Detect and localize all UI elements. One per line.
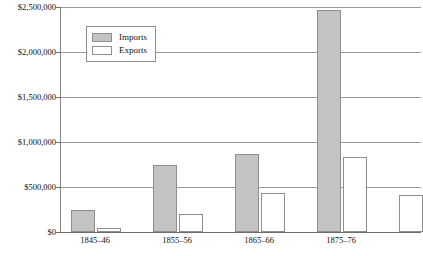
x-axis-tick-label: 1865–66	[219, 236, 299, 245]
y-axis-tick-mark	[56, 52, 61, 53]
y-axis-tick-mark	[56, 187, 61, 188]
y-axis-tick-label: $2,000,000	[0, 48, 56, 57]
gridline	[61, 232, 421, 233]
y-axis-tick-label: $1,000,000	[0, 138, 56, 147]
empty-white-swatch-icon	[92, 46, 112, 55]
gridline	[61, 97, 421, 98]
legend-item-imports: Imports	[92, 31, 147, 44]
bar-imports	[153, 165, 177, 233]
y-axis-tick-label: $0	[0, 228, 56, 237]
x-axis: 1845–461855–561865–661875–76	[60, 236, 422, 256]
y-axis-tick-mark	[56, 7, 61, 8]
legend-item-label: Imports	[119, 33, 147, 42]
bar-exports-clipped	[399, 195, 423, 232]
x-axis-tick-label: 1855–56	[137, 236, 217, 245]
x-axis-tick-label: 1875–76	[301, 236, 381, 245]
legend-item-label: Exports	[119, 46, 147, 55]
bar-exports	[179, 214, 203, 232]
legend-item-exports: Exports	[92, 44, 147, 57]
bar-imports	[235, 154, 259, 232]
filled-gray-swatch-icon	[92, 33, 112, 42]
x-axis-tick-label: 1845–46	[55, 236, 135, 245]
bar-exports	[261, 193, 285, 232]
bar-exports	[97, 228, 121, 232]
y-axis-tick-mark	[56, 97, 61, 98]
bar-imports	[317, 10, 341, 232]
y-axis: $2,500,000$2,000,000$1,500,000$1,000,000…	[0, 0, 56, 256]
gridline	[61, 7, 421, 8]
chart-legend: Imports Exports	[86, 26, 156, 62]
y-axis-tick-mark	[56, 142, 61, 143]
y-axis-tick-label: $2,500,000	[0, 3, 56, 12]
y-axis-tick-label: $500,000	[0, 183, 56, 192]
y-axis-tick-mark	[56, 232, 61, 233]
bar-imports	[71, 210, 95, 233]
gridline	[61, 142, 421, 143]
y-axis-tick-label: $1,500,000	[0, 93, 56, 102]
bar-exports	[343, 157, 367, 232]
